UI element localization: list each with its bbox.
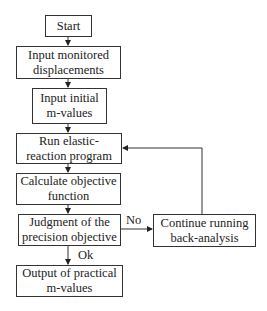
node-output: Output of practical m-values	[16, 265, 123, 297]
edge-label-no: No	[126, 213, 141, 227]
node-input-m-values: Input initial m-values	[32, 88, 107, 124]
node-judgment: Judgment of the precision objective	[18, 214, 121, 246]
node-run-program: Run elastic- reaction program	[16, 133, 122, 164]
node-start: Start	[45, 15, 92, 37]
node-continue-back-analysis: Continue running back-analysis	[153, 214, 256, 247]
edge-label-ok: Ok	[78, 248, 93, 262]
node-calculate-objective: Calculate objective function	[16, 173, 121, 205]
node-input-displacements: Input monitored displacements	[16, 46, 121, 79]
